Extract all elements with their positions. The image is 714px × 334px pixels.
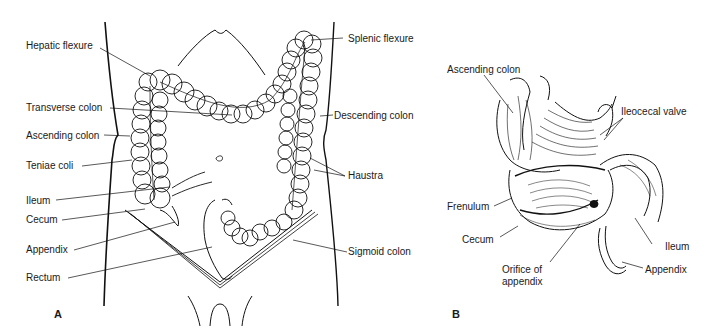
- label-frenulum: Frenulum: [447, 201, 489, 212]
- label-ileocecal-valve: Ileocecal valve: [621, 106, 687, 117]
- label-b-ileum: Ileum: [665, 241, 689, 252]
- panel-a-letter: A: [54, 308, 62, 320]
- label-splenic-flexure: Splenic flexure: [348, 33, 414, 44]
- label-haustra: Haustra: [348, 170, 383, 181]
- label-hepatic-flexure: Hepatic flexure: [26, 40, 93, 51]
- label-sigmoid-colon: Sigmoid colon: [348, 246, 411, 257]
- panel-b-letter: B: [452, 308, 460, 320]
- panel-a-illustration: [0, 0, 714, 334]
- label-teniae-coli: Teniae coli: [26, 160, 73, 171]
- label-ascending-colon: Ascending colon: [26, 130, 99, 141]
- label-orifice-of-appendix-line1: Orifice of: [502, 264, 542, 275]
- label-b-ascending-colon: Ascending colon: [447, 64, 520, 75]
- label-ileum: Ileum: [26, 195, 50, 206]
- label-transverse-colon: Transverse colon: [26, 102, 102, 113]
- label-cecum: Cecum: [26, 214, 58, 225]
- label-rectum: Rectum: [26, 272, 60, 283]
- label-b-appendix: Appendix: [645, 264, 687, 275]
- label-b-cecum: Cecum: [462, 234, 494, 245]
- colon-anatomy-figure: Hepatic flexure Splenic flexure Transver…: [0, 0, 714, 334]
- label-descending-colon: Descending colon: [334, 110, 414, 121]
- label-orifice-of-appendix-line2: appendix: [502, 276, 543, 287]
- label-appendix: Appendix: [26, 244, 68, 255]
